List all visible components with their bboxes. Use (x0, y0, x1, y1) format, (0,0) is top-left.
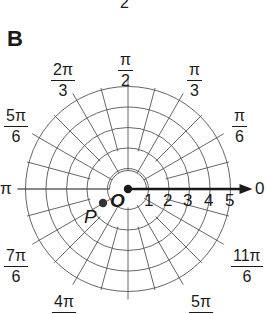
radius-label-1: 1 (144, 192, 153, 209)
radius-label-5: 5 (225, 192, 234, 209)
angle-label-pi-over-6: π 6 (232, 108, 247, 145)
radius-label-3: 3 (183, 192, 192, 209)
polar-grid (0, 0, 267, 314)
angle-label-pi: π (0, 180, 12, 197)
polar-diagram: 2 B π 2 π 3 2π 3 π 6 5π 6 π 0 7π 6 11π 6… (0, 0, 267, 314)
angle-label-2pi-over-3: 2π 3 (51, 62, 75, 99)
angle-label-pi-over-2: π 2 (118, 52, 133, 89)
radial-line (27, 199, 90, 216)
angle-label-5pi-over-6: 5π 6 (4, 108, 28, 145)
angle-label-7pi-over-6: 7π 6 (4, 248, 28, 285)
angle-label-5pi-over-3: 5π (189, 294, 213, 313)
radial-line (101, 88, 118, 151)
panel-letter: B (7, 26, 23, 52)
radial-line (166, 199, 229, 216)
origin-point (124, 185, 132, 193)
cropped-top-text: 2 (120, 0, 129, 12)
point-p (99, 199, 107, 207)
angle-label-zero: 0 (255, 180, 264, 197)
radius-label-2: 2 (163, 192, 172, 209)
arrow-head-icon (240, 184, 253, 194)
origin-label: O (110, 190, 125, 212)
radial-line (166, 162, 229, 179)
radial-line (138, 88, 155, 151)
radius-label-4: 4 (204, 192, 213, 209)
radial-line (138, 227, 155, 290)
angle-label-4pi-over-3: 4π (52, 294, 76, 313)
angle-label-11pi-over-6: 11π 6 (231, 248, 263, 285)
radial-line (27, 162, 90, 179)
radial-line (101, 227, 118, 290)
point-p-label: P (84, 206, 97, 228)
angle-label-pi-over-3: π 3 (187, 62, 202, 99)
